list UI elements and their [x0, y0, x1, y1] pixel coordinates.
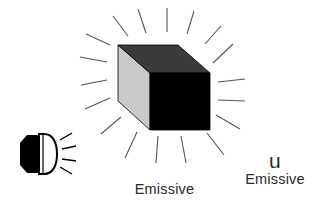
caption-emissive-right: Emissive: [236, 171, 314, 187]
glow-ray: [101, 117, 121, 134]
label-u: u: [238, 150, 312, 172]
glow-ray: [216, 115, 240, 129]
caption-emissive-center: Emissive: [112, 181, 217, 197]
lamp-ray: [62, 159, 76, 161]
glow-ray: [207, 133, 224, 155]
cube-front-face: [150, 73, 210, 130]
glow-ray: [213, 44, 233, 63]
lamp-lens: [39, 134, 57, 174]
lamp-ray: [60, 133, 72, 140]
lamp-rays: [60, 133, 76, 174]
glow-ray: [218, 100, 245, 101]
glow-ray: [113, 16, 128, 36]
glow-ray: [81, 80, 107, 85]
glow-ray: [138, 9, 146, 33]
emissive-cube: [118, 45, 210, 130]
light-source-lamp: [20, 133, 76, 174]
glow-ray: [80, 57, 107, 62]
glow-ray: [181, 136, 186, 163]
glow-ray: [85, 98, 110, 109]
glow-ray: [86, 34, 110, 45]
figure-canvas: Emissive u Emissive: [0, 0, 325, 215]
glow-ray: [187, 11, 194, 34]
glow-ray: [218, 79, 245, 82]
lamp-body: [20, 135, 39, 173]
lamp-ray: [60, 167, 72, 174]
glow-ray: [125, 132, 137, 158]
lamp-ray: [62, 146, 76, 149]
glow-ray: [205, 26, 221, 44]
glow-ray: [156, 136, 158, 163]
